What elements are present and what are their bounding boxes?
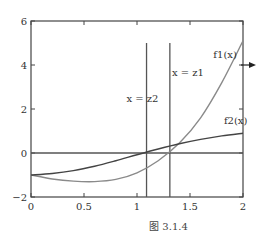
reference-lines — [31, 43, 243, 197]
x-tick-label: 0 — [28, 201, 34, 212]
label-f2x: f2(x) — [224, 115, 248, 126]
label-xz2: x = z2 — [126, 93, 158, 104]
axis-ticks — [31, 21, 243, 197]
axes-frame — [31, 21, 243, 197]
y-tick-label: 0 — [21, 148, 27, 159]
y-tick-label: 6 — [21, 16, 27, 27]
figure-caption: 图 3.1.4 — [0, 218, 267, 233]
label-xz1: x = z1 — [172, 67, 204, 78]
y-tick-label: 2 — [21, 104, 27, 115]
x-tick-label: 1 — [134, 201, 140, 212]
x-tick-label: 2 — [240, 201, 246, 212]
label-f1x: f1(x) — [213, 49, 237, 60]
plot-frame — [31, 21, 243, 197]
axis-tick-labels: 00.511.52−20246 — [12, 16, 246, 212]
y-tick-label: −2 — [12, 192, 27, 203]
curves — [31, 41, 243, 182]
x-tick-label: 0.5 — [76, 201, 92, 212]
x-tick-label: 1.5 — [182, 201, 198, 212]
arrow-head-icon — [249, 62, 256, 68]
y-tick-label: 4 — [21, 60, 27, 71]
chart: 00.511.52−20246 f1(x)f2(x)x = z1x = z2 — [0, 0, 267, 247]
curve-f2x — [31, 133, 243, 175]
curve-f1x — [31, 41, 243, 182]
annotations: f1(x)f2(x)x = z1x = z2 — [126, 49, 256, 126]
